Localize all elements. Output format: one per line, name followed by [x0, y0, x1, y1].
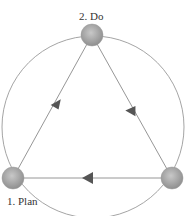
node-plan: [2, 167, 24, 189]
node-do: [81, 24, 103, 46]
edge-do-to-check: [92, 35, 172, 178]
node-check: [161, 167, 183, 189]
label-plan: 1. Plan: [7, 195, 38, 207]
pdca-cycle-diagram: [0, 0, 188, 216]
label-do: 2. Do: [79, 10, 103, 22]
arrow-left-icon: [82, 172, 93, 184]
outer-cycle-circle: [2, 36, 184, 216]
edge-plan-to-do: [13, 35, 92, 178]
